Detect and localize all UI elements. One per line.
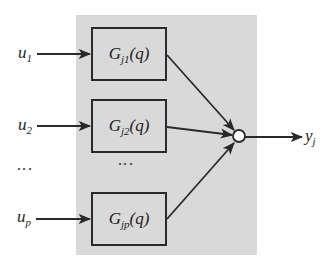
block-2-to-sum-arrow [167, 127, 232, 135]
miso-block-diagram: Gj1(q) Gj2(q) Gjp(q) ⋮ ⋮ u1 u2 up yj [0, 0, 336, 263]
summing-junction-icon [233, 130, 245, 142]
block-1-to-sum-arrow [167, 55, 234, 130]
block-p-to-sum-arrow [167, 143, 234, 219]
signal-wires [0, 0, 336, 263]
